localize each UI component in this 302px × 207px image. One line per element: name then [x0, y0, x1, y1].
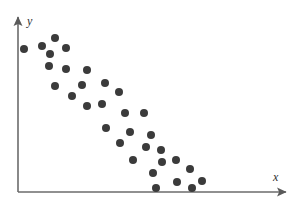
- data-point-group: [20, 34, 206, 192]
- data-point: [78, 81, 86, 89]
- data-point: [116, 139, 124, 147]
- data-point: [38, 42, 46, 50]
- data-point: [115, 88, 123, 96]
- data-point: [98, 100, 106, 108]
- data-point: [157, 146, 165, 154]
- data-point: [173, 178, 181, 186]
- data-point: [68, 92, 76, 100]
- data-point: [172, 156, 180, 164]
- scatter-plot-figure: y x: [0, 0, 302, 207]
- data-point: [62, 44, 70, 52]
- data-point: [142, 143, 150, 151]
- data-point: [62, 65, 70, 73]
- data-point: [149, 169, 157, 177]
- data-point: [147, 131, 155, 139]
- data-point: [83, 102, 91, 110]
- data-point: [198, 177, 206, 185]
- data-point: [158, 158, 166, 166]
- data-point: [186, 165, 194, 173]
- y-axis-label: y: [27, 15, 32, 27]
- plot-canvas: [0, 0, 302, 207]
- data-point: [102, 124, 110, 132]
- data-point: [152, 184, 160, 192]
- data-point: [101, 79, 109, 87]
- data-point: [83, 66, 91, 74]
- data-point: [129, 156, 137, 164]
- data-point: [51, 82, 59, 90]
- data-point: [188, 184, 196, 192]
- x-axis-label: x: [273, 171, 278, 183]
- data-point: [20, 45, 28, 53]
- axes: [18, 17, 286, 192]
- data-point: [126, 128, 134, 136]
- data-point: [121, 109, 129, 117]
- data-point: [45, 62, 53, 70]
- data-point: [46, 50, 54, 58]
- data-point: [51, 34, 59, 42]
- data-point: [140, 109, 148, 117]
